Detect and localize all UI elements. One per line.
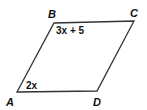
angle-a-label: 2x <box>26 80 38 91</box>
angle-b-label: 3x + 5 <box>56 25 85 36</box>
parallelogram-diagram: B C A D 3x + 5 2x <box>0 0 147 110</box>
vertex-label-d: D <box>93 96 101 108</box>
vertex-label-c: C <box>130 7 139 19</box>
vertex-label-a: A <box>5 96 14 108</box>
vertex-label-b: B <box>48 8 56 20</box>
